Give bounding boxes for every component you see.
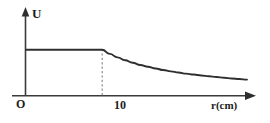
figure-container: U r(cm) O 10 xyxy=(0,0,270,123)
x-axis-label: r(cm) xyxy=(211,100,237,111)
y-axis-label: U xyxy=(32,7,41,20)
origin-label: O xyxy=(16,98,25,110)
y-axis-arrowhead xyxy=(22,7,30,17)
potential-curve xyxy=(26,50,247,80)
x-tick-label-10: 10 xyxy=(114,99,126,111)
x-axis-arrowhead xyxy=(245,92,256,100)
